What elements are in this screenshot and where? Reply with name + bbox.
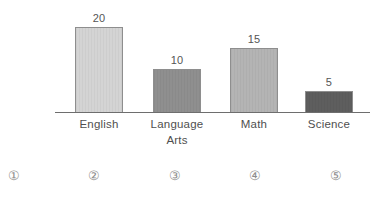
category-label-language-arts-line2: Arts	[132, 132, 222, 148]
chart-plot-area: 20 10 15 5	[0, 0, 387, 112]
bar-value-label-science: 5	[304, 76, 354, 89]
category-axis-labels: English Language Arts Math Science	[0, 116, 387, 155]
category-label-english-line1: English	[54, 116, 144, 132]
bar-group-english: 20	[74, 0, 124, 112]
answer-choice-1[interactable]: ①	[2, 168, 26, 184]
bar-value-label-math: 15	[229, 33, 279, 46]
bar-value-label-language-arts: 10	[152, 54, 202, 67]
answer-choice-2[interactable]: ②	[82, 168, 106, 184]
answer-choice-3[interactable]: ③	[163, 168, 187, 184]
category-label-english: English	[54, 116, 144, 132]
bar-group-language-arts: 10	[152, 0, 202, 112]
bar-value-label-english: 20	[74, 12, 124, 25]
bar-english	[75, 27, 123, 112]
answer-choice-row: ① ② ③ ④ ⑤	[0, 160, 387, 199]
bar-science	[305, 91, 353, 112]
bar-group-science: 5	[304, 0, 354, 112]
category-label-science: Science	[284, 116, 374, 132]
bar-group-math: 15	[229, 0, 279, 112]
bar-language-arts	[153, 69, 201, 112]
x-axis-baseline	[55, 112, 370, 113]
bar-chart-figure: 20 10 15 5 English Language Arts Math	[0, 0, 387, 155]
category-label-science-line1: Science	[284, 116, 374, 132]
bar-math	[230, 48, 278, 112]
answer-choice-5[interactable]: ⑤	[324, 168, 348, 184]
answer-choice-4[interactable]: ④	[243, 168, 267, 184]
